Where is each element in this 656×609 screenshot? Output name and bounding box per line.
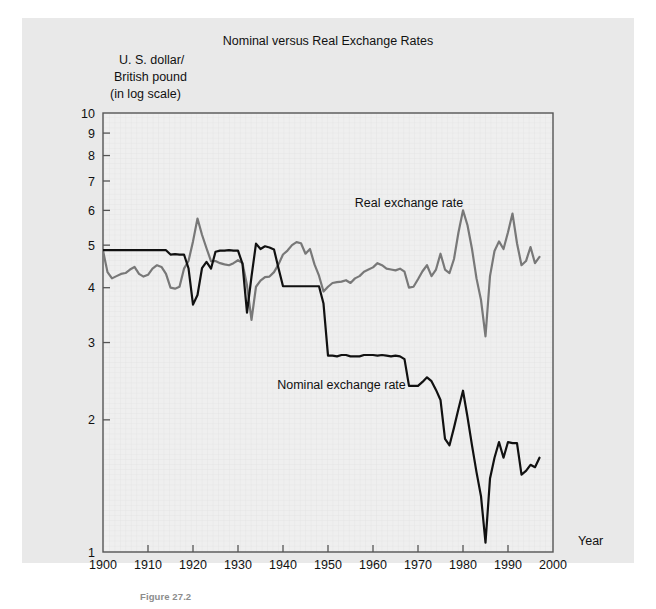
x-axis-label: Year (578, 534, 603, 548)
x-tick-label: 1980 (449, 558, 477, 572)
y-axis-label-line-2: British pound (114, 70, 187, 84)
x-tick-label: 1930 (224, 558, 252, 572)
x-tick-label: 1970 (404, 558, 432, 572)
y-tick-label: 2 (88, 413, 95, 427)
annotation-real-exchange-rate: Real exchange rate (355, 196, 463, 210)
y-tick-label: 8 (88, 149, 95, 163)
figure-caption-wrap: Figure 27.2 (140, 586, 440, 602)
y-tick-label: 10 (81, 107, 95, 121)
exchange-rate-chart: 1234567891019001910192019301940195019601… (0, 0, 656, 609)
x-tick-label: 2000 (539, 558, 567, 572)
x-tick-label: 1920 (179, 558, 207, 572)
y-tick-label: 3 (88, 336, 95, 350)
y-tick-label: 5 (88, 239, 95, 253)
y-axis-label-line-3: (in log scale) (110, 87, 181, 101)
x-tick-label: 1960 (359, 558, 387, 572)
y-tick-label: 9 (88, 127, 95, 141)
x-tick-label: 1940 (269, 558, 297, 572)
y-axis-label-line-1: U. S. dollar/ (119, 53, 185, 67)
x-tick-label: 1900 (89, 558, 117, 572)
x-tick-label: 1990 (494, 558, 522, 572)
chart-canvas: 1234567891019001910192019301940195019601… (0, 0, 656, 609)
y-tick-label: 6 (88, 204, 95, 218)
annotation-nominal-exchange-rate: Nominal exchange rate (277, 378, 406, 392)
x-tick-label: 1910 (134, 558, 162, 572)
chart-title: Nominal versus Real Exchange Rates (223, 34, 434, 48)
figure-caption: Figure 27.2 (140, 591, 191, 602)
y-tick-label: 4 (88, 281, 95, 295)
y-tick-label: 7 (88, 175, 95, 189)
x-tick-label: 1950 (314, 558, 342, 572)
